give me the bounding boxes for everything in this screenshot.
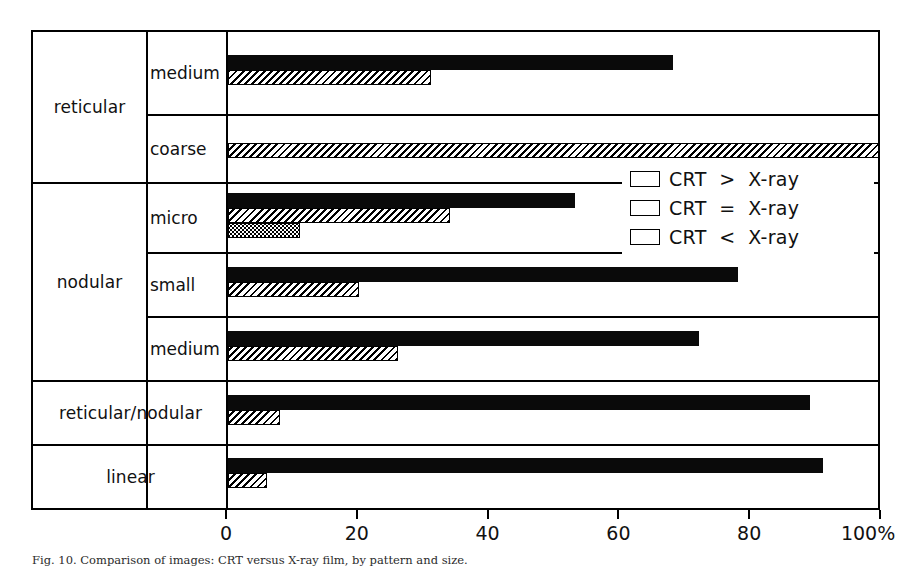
bar-nodular-small-eq bbox=[228, 282, 359, 297]
legend-label-text: CRT = X-ray bbox=[669, 197, 799, 219]
figure-caption: Fig. 10. Comparison of images: CRT versu… bbox=[32, 553, 732, 567]
sub-label-nodular-small: small bbox=[148, 254, 226, 318]
bar-nodular-medium-gt bbox=[228, 331, 699, 346]
bar-linear-eq bbox=[228, 473, 267, 488]
bar-row-reticular-medium bbox=[228, 32, 878, 116]
x-tick-label-80: 80 bbox=[737, 522, 761, 544]
sub-label-text: micro bbox=[150, 208, 198, 228]
sub-label-text: medium bbox=[150, 63, 220, 83]
x-tick-80 bbox=[748, 510, 750, 519]
legend-swatch-dotted-stipple bbox=[630, 229, 660, 245]
group-label-text: nodular bbox=[57, 272, 123, 292]
legend-swatch-solid-black bbox=[630, 171, 660, 187]
legend-item-1: CRT = X-ray bbox=[622, 193, 874, 222]
x-tick-20 bbox=[356, 510, 358, 519]
x-tick-100 bbox=[879, 510, 881, 519]
sub-label-reticular-coarse: coarse bbox=[148, 116, 226, 184]
chart-figure: reticularnodular mediumcoarsemicrosmallm… bbox=[0, 0, 916, 571]
sub-label-text: coarse bbox=[150, 139, 206, 159]
bar-reticular-medium-eq bbox=[228, 70, 431, 85]
group-label-text: linear bbox=[106, 467, 155, 487]
sub-label-nodular-medium: medium bbox=[148, 318, 226, 382]
legend-label-text: CRT < X-ray bbox=[669, 226, 799, 248]
group-label-text: reticular bbox=[54, 97, 126, 117]
group-label-linear: linear bbox=[33, 446, 228, 508]
bar-row-reticular-nodular bbox=[228, 382, 878, 446]
x-tick-40 bbox=[487, 510, 489, 519]
bar-reticular-medium-gt bbox=[228, 55, 673, 70]
bar-row-nodular-medium bbox=[228, 318, 878, 382]
bar-nodular-micro-gt bbox=[228, 193, 575, 208]
x-tick-label-40: 40 bbox=[476, 522, 500, 544]
bar-reticular-nodular-eq bbox=[228, 410, 280, 425]
bar-row-linear bbox=[228, 446, 878, 508]
group-label-reticular: reticular bbox=[33, 32, 146, 184]
sub-label-text: small bbox=[150, 275, 195, 295]
x-tick-0 bbox=[225, 510, 227, 519]
chart-legend: CRT > X-rayCRT = X-rayCRT < X-ray bbox=[622, 159, 874, 257]
bar-linear-gt bbox=[228, 458, 823, 473]
group-label-text: reticular/nodular bbox=[59, 403, 202, 423]
bar-nodular-micro-lt bbox=[228, 223, 300, 238]
legend-item-2: CRT < X-ray bbox=[622, 222, 874, 251]
group-label-nodular: nodular bbox=[33, 184, 146, 382]
x-tick-label-20: 20 bbox=[345, 522, 369, 544]
x-tick-label-0: 0 bbox=[220, 522, 232, 544]
sub-label-text: medium bbox=[150, 339, 220, 359]
bar-nodular-medium-eq bbox=[228, 346, 398, 361]
x-axis: 020406080100% bbox=[226, 510, 880, 511]
x-tick-label-60: 60 bbox=[606, 522, 630, 544]
sub-label-reticular-medium: medium bbox=[148, 32, 226, 116]
sub-label-nodular-micro: micro bbox=[148, 184, 226, 254]
x-tick-60 bbox=[617, 510, 619, 519]
bar-nodular-micro-eq bbox=[228, 208, 450, 223]
bar-reticular-nodular-gt bbox=[228, 395, 810, 410]
group-label-reticular-nodular: reticular/nodular bbox=[33, 382, 228, 446]
legend-swatch-diagonal-hatch bbox=[630, 200, 660, 216]
legend-item-0: CRT > X-ray bbox=[622, 164, 874, 193]
bar-nodular-small-gt bbox=[228, 267, 738, 282]
chart-plot-frame: reticularnodular mediumcoarsemicrosmallm… bbox=[31, 30, 880, 510]
bar-reticular-coarse-eq bbox=[228, 143, 878, 158]
x-tick-label-100: 100% bbox=[841, 522, 895, 544]
bars-area bbox=[228, 32, 878, 508]
legend-label-text: CRT > X-ray bbox=[669, 168, 799, 190]
bar-row-nodular-small bbox=[228, 254, 878, 318]
